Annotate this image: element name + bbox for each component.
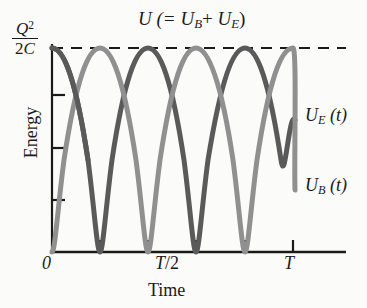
x-axis-title: Time: [148, 280, 185, 301]
x-tick-label-period: T: [284, 253, 294, 274]
ub-label-arg: (t): [330, 175, 347, 195]
x-tick-half-symbol: T: [155, 253, 165, 273]
title-close: ): [239, 8, 245, 29]
curve-label-ue: UE (t): [305, 105, 347, 128]
ub-label-main: U: [305, 175, 318, 195]
y-max-denominator-symbol: C: [24, 39, 35, 58]
plot-title: U (= UB+ UE): [138, 8, 245, 32]
y-max-numerator-base: Q: [16, 19, 28, 38]
energy-oscillation-figure: U (= UB+ UE) Q2 2C Energy 0 T/2 T Time U…: [0, 0, 367, 308]
y-max-numerator: Q2: [12, 20, 38, 38]
title-open: (=: [156, 8, 175, 29]
curve-ue-leadin: [52, 48, 88, 160]
y-axis-max-label: Q2 2C: [12, 20, 38, 57]
title-ub: U: [180, 8, 194, 29]
curve-label-ub: UB (t): [305, 175, 347, 198]
ue-label-arg: (t): [330, 105, 347, 125]
x-tick-half-divisor: /2: [165, 253, 179, 273]
y-max-denominator: 2C: [12, 38, 38, 57]
x-tick-label-zero: 0: [42, 253, 51, 274]
title-plus: +: [202, 8, 213, 29]
y-max-numerator-exponent: 2: [28, 19, 34, 32]
title-ue: U: [217, 8, 231, 29]
plot-canvas: [0, 0, 367, 308]
ue-label-main: U: [305, 105, 318, 125]
y-max-denominator-coefficient: 2: [15, 39, 24, 58]
title-ub-sub: B: [194, 16, 202, 31]
y-axis-title: Energy: [21, 91, 42, 175]
title-u: U: [138, 8, 152, 29]
title-ue-sub: E: [231, 16, 239, 31]
x-tick-label-half-period: T/2: [155, 253, 179, 274]
